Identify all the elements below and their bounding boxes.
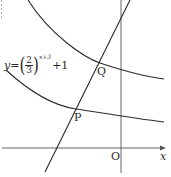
equation-tail: +1: [52, 59, 68, 72]
fraction-denominator: 3: [26, 66, 32, 75]
equation-equals: =: [10, 59, 19, 72]
exponent: x+3: [39, 53, 51, 60]
point-p-label: P: [74, 111, 82, 124]
point-q-label: Q: [97, 65, 106, 78]
right-paren: ): [33, 55, 39, 76]
lower-exponential-curve: [6, 70, 164, 122]
left-paren: (: [19, 55, 25, 76]
straight-line: [45, 0, 130, 172]
graph-canvas: Q P O x y=(23)x+3+1: [0, 0, 171, 177]
origin-label: O: [111, 150, 120, 163]
equation-label: y=(23)x+3+1: [4, 56, 68, 75]
x-axis-label: x: [160, 150, 167, 163]
graph-svg: Q P O x: [0, 0, 171, 177]
fraction: 23: [25, 56, 33, 75]
